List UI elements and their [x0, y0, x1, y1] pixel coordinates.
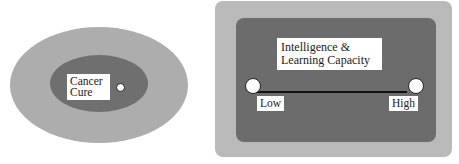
cancer-cure-label: Cancer Cure — [67, 74, 110, 100]
cancer-cure-label-line-2: Cure — [70, 87, 107, 98]
scale-low-endpoint — [245, 78, 261, 94]
intelligence-label: Intelligence & Learning Capacity — [277, 38, 382, 70]
high-label: High — [389, 96, 418, 111]
position-dot — [116, 83, 125, 92]
intelligence-label-line-2: Learning Capacity — [281, 54, 378, 67]
scale-high-endpoint — [408, 78, 424, 94]
scale-line — [252, 91, 407, 93]
low-label: Low — [257, 96, 284, 111]
inner-rectangle — [236, 18, 436, 142]
